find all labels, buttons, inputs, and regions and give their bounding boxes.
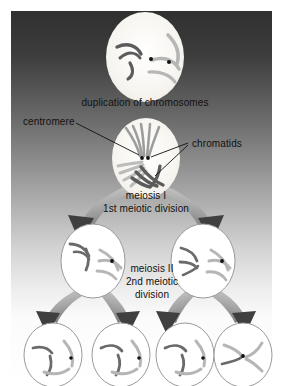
centromere-dot: [140, 156, 144, 160]
centromere-dot: [69, 356, 73, 360]
centromere-dot: [220, 259, 224, 263]
daughter-cell-left: [61, 224, 125, 298]
centromere-dot: [110, 259, 114, 263]
label-meiosis-one: meiosis I: [126, 190, 166, 202]
gamete-cell-4: [214, 323, 272, 386]
label-division: division: [135, 289, 169, 301]
gamete-cell-1: [24, 323, 82, 386]
centromere-dot: [149, 57, 153, 61]
label-first-meiotic-division: 1st meiotic division: [103, 203, 189, 215]
centromere-dot: [146, 156, 150, 160]
parent-cell: [106, 12, 184, 102]
daughter-cell-right: [171, 224, 235, 298]
centromere-dot: [201, 356, 205, 360]
meiosis-diagram: duplication of chromosomes centromere ch…: [0, 0, 284, 386]
centromere-dot: [241, 354, 245, 358]
centromere-dot: [137, 356, 141, 360]
label-duplication-of-chromosomes: duplication of chromosomes: [81, 97, 208, 109]
gamete-cell-2: [92, 323, 150, 386]
metaphase-cell: [112, 118, 180, 198]
gamete-cell-3: [156, 323, 214, 386]
label-second-meiotic: 2nd meiotic: [126, 276, 178, 288]
label-meiosis-two: meiosis II: [130, 263, 173, 275]
label-centromere: centromere: [23, 116, 75, 128]
label-chromatids: chromatids: [192, 138, 242, 150]
centromere-dot: [167, 60, 171, 64]
